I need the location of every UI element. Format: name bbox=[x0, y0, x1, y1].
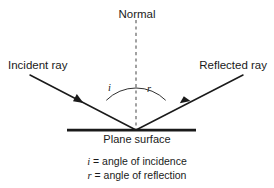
legend-text-reflection: = angle of reflection bbox=[92, 169, 187, 181]
incident-ray-arrow-icon bbox=[73, 94, 84, 103]
reflected-ray-label: Reflected ray bbox=[199, 60, 267, 72]
legend-line-incidence: i = angle of incidence bbox=[0, 155, 274, 169]
normal-label: Normal bbox=[0, 9, 274, 21]
plane-surface-label: Plane surface bbox=[0, 134, 274, 145]
incident-ray-label: Incident ray bbox=[8, 60, 67, 72]
legend-line-reflection: r = angle of reflection bbox=[0, 169, 274, 183]
reflected-ray-line bbox=[136, 75, 243, 130]
angle-r-label: r bbox=[147, 84, 151, 95]
legend: i = angle of incidence r = angle of refl… bbox=[0, 155, 274, 182]
reflection-diagram: Normal Incident ray Reflected ray i r Pl… bbox=[0, 0, 274, 188]
angle-i-label: i bbox=[108, 83, 111, 94]
legend-text-incidence: = angle of incidence bbox=[90, 155, 187, 167]
